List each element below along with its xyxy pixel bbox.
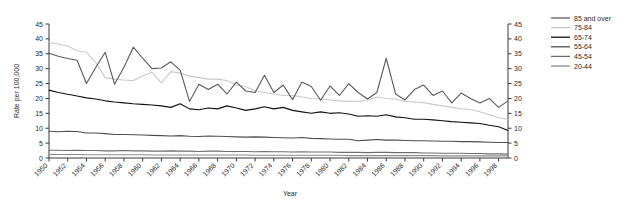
x-axis-tick-label: 1966 xyxy=(183,162,199,178)
x-axis-tick-label: 1974 xyxy=(258,162,274,178)
y-axis-left-tick-label: 15 xyxy=(35,110,43,117)
x-axis-tick-label: 1980 xyxy=(314,162,330,178)
legend-item-label: 65-74 xyxy=(574,34,592,41)
legend-item[interactable]: 20-44 xyxy=(551,63,592,70)
y-axis-right-tick-label: 25 xyxy=(514,80,522,87)
y-axis-left-tick-label: 0 xyxy=(39,155,43,162)
x-axis-tick-label: 1978 xyxy=(295,162,311,178)
line-chart: 051015202530354045Rate per 100,000051015… xyxy=(0,0,642,209)
x-axis-tick-label: 1972 xyxy=(239,162,255,178)
y-axis-left-tick-label: 25 xyxy=(35,80,43,87)
y-axis-right-tick-label: 5 xyxy=(514,140,518,147)
x-axis-tick-label: 1964 xyxy=(164,162,180,178)
y-axis-left-tick-label: 40 xyxy=(35,35,43,42)
y-axis-right-tick-label: 35 xyxy=(514,50,522,57)
y-axis-left-tick-label: 35 xyxy=(35,50,43,57)
series-line-85-and-over xyxy=(49,47,508,107)
x-axis-title: Year xyxy=(283,190,298,197)
axes-group: 051015202530354045Rate per 100,000051015… xyxy=(13,21,522,197)
x-axis-tick-label: 1994 xyxy=(445,162,461,178)
x-axis-tick-label: 1956 xyxy=(89,162,105,178)
legend-item-label: 20-44 xyxy=(574,63,592,70)
y-axis-right-tick-label: 10 xyxy=(514,125,522,132)
legend-item[interactable]: 55-64 xyxy=(551,43,592,50)
x-axis-tick-label: 1958 xyxy=(108,162,124,178)
y-axis-right-tick-label: 20 xyxy=(514,95,522,102)
legend: 85 and over75-8465-7455-6445-5420-44 xyxy=(551,15,612,70)
x-axis-tick-label: 1982 xyxy=(332,162,348,178)
y-axis-left-tick-label: 30 xyxy=(35,65,43,72)
series-line-20-44 xyxy=(49,154,508,155)
x-axis-tick-label: 1962 xyxy=(145,162,161,178)
legend-item[interactable]: 75-84 xyxy=(551,24,592,31)
y-axis-right-tick-label: 0 xyxy=(514,155,518,162)
x-axis-tick-label: 1954 xyxy=(70,162,86,178)
y-axis-left-tick-label: 5 xyxy=(39,140,43,147)
y-axis-left-tick-label: 20 xyxy=(35,95,43,102)
series-line-45-54 xyxy=(49,150,508,154)
x-axis-tick-label: 1996 xyxy=(464,162,480,178)
legend-item[interactable]: 85 and over xyxy=(551,15,612,22)
x-axis-tick-label: 1988 xyxy=(389,162,405,178)
legend-item-label: 75-84 xyxy=(574,24,592,31)
x-axis-tick-label: 1990 xyxy=(407,162,423,178)
legend-item[interactable]: 45-54 xyxy=(551,53,592,60)
y-axis-right-tick-label: 45 xyxy=(514,21,522,28)
y-axis-right-tick-label: 40 xyxy=(514,35,522,42)
x-axis-tick-label: 1976 xyxy=(276,162,292,178)
x-axis-tick-label: 1998 xyxy=(482,162,498,178)
y-axis-title: Rate per 100,000 xyxy=(13,64,21,118)
x-axis-tick-label: 1950 xyxy=(33,162,49,178)
series-group xyxy=(49,42,508,155)
series-line-55-64 xyxy=(49,131,508,142)
y-axis-left-tick-label: 10 xyxy=(35,125,43,132)
x-axis-tick-label: 1986 xyxy=(370,162,386,178)
legend-item[interactable]: 65-74 xyxy=(551,34,592,41)
x-axis-tick-label: 1952 xyxy=(51,162,67,178)
legend-item-label: 45-54 xyxy=(574,53,592,60)
x-axis-tick-label: 1970 xyxy=(220,162,236,178)
x-axis-tick-label: 1960 xyxy=(126,162,142,178)
x-axis-tick-label: 1984 xyxy=(351,162,367,178)
y-axis-right-tick-label: 30 xyxy=(514,65,522,72)
x-axis-tick-label: 1992 xyxy=(426,162,442,178)
chart-canvas: 051015202530354045Rate per 100,000051015… xyxy=(0,0,642,209)
y-axis-left-tick-label: 45 xyxy=(35,21,43,28)
y-axis-right-tick-label: 15 xyxy=(514,110,522,117)
legend-item-label: 55-64 xyxy=(574,43,592,50)
x-axis-tick-label: 1968 xyxy=(201,162,217,178)
series-line-65-74 xyxy=(49,90,508,130)
legend-item-label: 85 and over xyxy=(574,15,612,22)
